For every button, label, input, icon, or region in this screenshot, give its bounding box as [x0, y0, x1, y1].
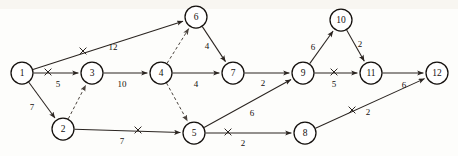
edge-2-to-5: [74, 129, 180, 132]
node-6[interactable]: 6: [185, 6, 207, 28]
node-7[interactable]: 7: [222, 62, 244, 84]
cross-mark-2-5: [135, 127, 142, 134]
edge-weight-7-9: 2: [261, 78, 266, 88]
edge-weight-9-11: 5: [332, 79, 337, 89]
edge-1-to-2: [29, 82, 55, 118]
node-label-12: 12: [432, 68, 442, 78]
network-graph: 12577104426262562 123456789101112: [0, 0, 458, 156]
node-label-6: 6: [194, 12, 199, 22]
edge-4-to-5: [167, 83, 188, 121]
node-8[interactable]: 8: [294, 122, 316, 144]
edge-weight-2-5: 7: [120, 136, 125, 146]
edge-weight-5-8: 2: [241, 138, 246, 148]
edge-weights-layer: 12577104426262562: [30, 39, 407, 148]
edge-weight-1-2: 7: [30, 102, 35, 112]
node-12[interactable]: 12: [426, 62, 448, 84]
edge-2-to-3: [68, 85, 85, 119]
edge-weight-8-12: 2: [366, 107, 371, 117]
edge-weight-11-12: 6: [402, 80, 407, 90]
node-label-10: 10: [336, 15, 346, 25]
edge-weight-3-4: 10: [118, 79, 128, 89]
cross-mark-1-3: [45, 69, 52, 76]
node-1[interactable]: 1: [11, 62, 33, 84]
edge-4-to-6: [167, 29, 189, 64]
node-10[interactable]: 10: [330, 9, 352, 31]
node-9[interactable]: 9: [292, 62, 314, 84]
node-label-8: 8: [303, 128, 308, 138]
node-label-1: 1: [20, 68, 25, 78]
node-label-9: 9: [301, 68, 306, 78]
node-4[interactable]: 4: [150, 62, 172, 84]
nodes-layer: 123456789101112: [11, 6, 448, 144]
node-label-5: 5: [192, 128, 197, 138]
diagram-canvas: 12577104426262562 123456789101112: [0, 0, 458, 156]
edge-weight-6-7: 4: [205, 41, 210, 51]
node-2[interactable]: 2: [52, 118, 74, 140]
node-3[interactable]: 3: [81, 62, 103, 84]
edge-weight-9-10: 6: [311, 42, 316, 52]
node-label-4: 4: [159, 68, 164, 78]
node-label-2: 2: [61, 124, 66, 134]
node-label-3: 3: [90, 68, 95, 78]
node-label-7: 7: [231, 68, 236, 78]
edge-weight-5-9: 6: [250, 108, 255, 118]
node-5[interactable]: 5: [183, 122, 205, 144]
node-11[interactable]: 11: [360, 62, 382, 84]
edge-weight-1-6: 12: [109, 42, 118, 52]
edge-weight-1-3: 5: [56, 79, 61, 89]
edge-weight-10-11: 2: [358, 39, 363, 49]
cross-mark-5-8: [225, 129, 232, 136]
cross-mark-9-11: [331, 69, 338, 76]
edge-weight-4-7: 4: [194, 79, 199, 89]
edge-5-to-9: [204, 80, 291, 128]
node-label-11: 11: [366, 68, 375, 78]
